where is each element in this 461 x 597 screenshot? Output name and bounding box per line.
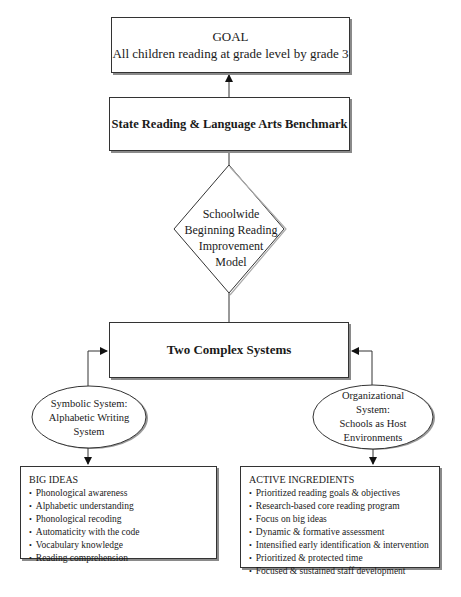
organizational-line: Environments — [318, 431, 428, 445]
list-item: Prioritized & protected time — [249, 552, 431, 565]
two-systems-box: Two Complex Systems — [109, 322, 349, 378]
list-item: Prioritized reading goals & objectives — [249, 487, 431, 500]
active-ingredients-box: ACTIVE INGREDIENTS Prioritized reading g… — [240, 466, 440, 568]
goal-subtitle: All children reading at grade level by g… — [112, 45, 348, 62]
active-ingredients-heading: ACTIVE INGREDIENTS — [249, 473, 431, 486]
model-line: Model — [181, 254, 281, 270]
goal-title: GOAL — [212, 28, 248, 45]
list-item: Vocabulary knowledge — [29, 539, 208, 552]
list-item: Phonological recoding — [29, 513, 208, 526]
list-item: Research-based core reading program — [249, 500, 431, 513]
organizational-line: System: — [318, 403, 428, 417]
goal-box: GOAL All children reading at grade level… — [111, 17, 350, 73]
list-item: Intensified early identification & inter… — [249, 539, 431, 552]
model-label: Schoolwide Beginning Reading Improvement… — [181, 206, 281, 270]
big-ideas-box: BIG IDEAS Phonological awareness Alphabe… — [20, 466, 217, 559]
list-item: Focused & sustained staff development — [249, 565, 431, 578]
benchmark-label: State Reading & Language Arts Benchmark — [112, 117, 348, 132]
symbolic-line: Symbolic System: — [34, 397, 144, 411]
big-ideas-heading: BIG IDEAS — [29, 473, 208, 486]
active-ingredients-list: Prioritized reading goals & objectives R… — [249, 487, 431, 578]
list-item: Phonological awareness — [29, 487, 208, 500]
list-item: Dynamic & formative assessment — [249, 526, 431, 539]
list-item: Alphabetic understanding — [29, 500, 208, 513]
symbolic-line: Alphabetic Writing — [34, 411, 144, 425]
list-item: Reading comprehension — [29, 552, 208, 565]
symbolic-line: System — [34, 425, 144, 439]
two-systems-label: Two Complex Systems — [167, 342, 292, 358]
arrow-symbolic-to-systems — [88, 351, 107, 386]
list-item: Focus on big ideas — [249, 513, 431, 526]
big-ideas-list: Phonological awareness Alphabetic unders… — [29, 487, 208, 565]
benchmark-box: State Reading & Language Arts Benchmark — [109, 97, 350, 151]
symbolic-system-label: Symbolic System: Alphabetic Writing Syst… — [34, 397, 144, 439]
model-line: Beginning Reading — [181, 222, 281, 238]
organizational-line: Organizational — [318, 389, 428, 403]
organizational-system-label: Organizational System: Schools as Host E… — [318, 389, 428, 445]
organizational-line: Schools as Host — [318, 417, 428, 431]
diagram-canvas: GOAL All children reading at grade level… — [0, 0, 461, 597]
arrow-organizational-to-systems — [352, 351, 372, 385]
list-item: Automaticity with the code — [29, 526, 208, 539]
model-line: Improvement — [181, 238, 281, 254]
model-line: Schoolwide — [181, 206, 281, 222]
